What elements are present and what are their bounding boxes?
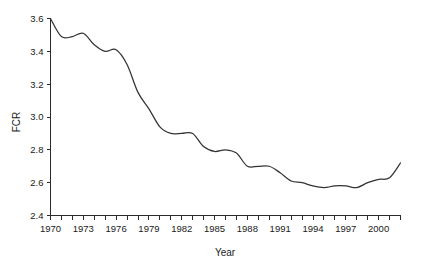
x-tick-label: 1970 (40, 223, 61, 234)
y-axis-title: FCR (11, 112, 22, 133)
x-tick-label: 1985 (204, 223, 225, 234)
y-tick-label: 2.8 (30, 144, 43, 155)
y-tick-label: 2.4 (30, 210, 43, 221)
y-tick-label: 3.6 (30, 13, 43, 24)
x-tick-label: 1973 (73, 223, 94, 234)
x-axis-tick-mark-group (51, 216, 401, 220)
y-tick-label: 3.0 (30, 111, 43, 122)
x-axis-title: Year (215, 247, 236, 258)
y-axis-tick-mark-group (47, 19, 51, 216)
x-tick-label: 1991 (270, 223, 291, 234)
y-tick-label: 2.6 (30, 177, 43, 188)
fcr-series-line (51, 19, 401, 188)
y-tick-label: 3.4 (30, 46, 43, 57)
x-tick-label: 1997 (335, 223, 356, 234)
x-axis-tick-label-group: 1970197319761979198219851988199119941997… (40, 223, 389, 234)
fcr-year-line-chart: 2.42.62.83.03.23.43.6 197019731976197919… (0, 0, 421, 271)
x-tick-label: 1979 (138, 223, 159, 234)
x-tick-label: 2000 (368, 223, 389, 234)
y-axis-tick-label-group: 2.42.62.83.03.23.43.6 (30, 13, 43, 221)
x-tick-label: 1976 (106, 223, 127, 234)
chart-canvas: 2.42.62.83.03.23.43.6 197019731976197919… (0, 0, 421, 271)
x-tick-label: 1988 (237, 223, 258, 234)
x-tick-label: 1994 (302, 223, 323, 234)
x-tick-label: 1982 (171, 223, 192, 234)
y-tick-label: 3.2 (30, 79, 43, 90)
